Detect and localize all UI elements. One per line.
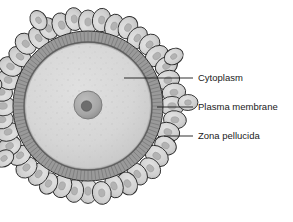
corona-radiata-cell <box>178 94 199 111</box>
label-plasma-membrane: Plasma membrane <box>198 101 278 112</box>
diagram-canvas: Cytoplasm Plasma membrane Zona pellucida <box>0 0 293 222</box>
label-zona-pellucida: Zona pellucida <box>198 130 261 141</box>
nucleolus-circle <box>81 101 91 111</box>
label-group: Cytoplasm Plasma membrane Zona pellucida <box>198 72 278 141</box>
oocyte-diagram-figure: Cytoplasm Plasma membrane Zona pellucida <box>0 0 293 222</box>
label-cytoplasm: Cytoplasm <box>198 72 243 83</box>
nucleus-group <box>74 91 102 119</box>
